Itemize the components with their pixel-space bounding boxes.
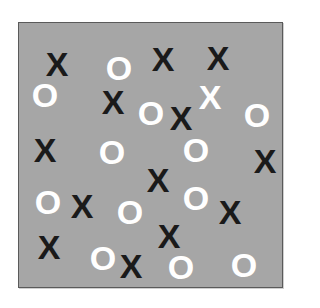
o-mark: O [138,96,164,130]
x-mark: X [71,189,94,223]
o-mark: O [183,181,209,215]
x-mark: X [102,85,125,119]
o-mark: O [35,185,61,219]
x-mark: X [38,230,61,264]
o-mark: O [106,51,132,85]
x-mark: X [170,101,193,135]
o-mark: O [244,98,270,132]
o-mark: O [32,78,58,112]
x-mark: X [207,41,230,75]
x-mark: X [34,133,57,167]
x-mark-highlighted: X [199,80,222,114]
o-mark: O [117,195,143,229]
x-mark: X [120,249,143,283]
x-mark: X [219,195,242,229]
x-mark: X [254,144,277,178]
o-mark: O [183,133,209,167]
o-mark: O [231,248,257,282]
x-mark: X [147,163,170,197]
o-mark: O [99,135,125,169]
o-mark: O [90,241,116,275]
o-mark: O [168,250,194,284]
x-mark: X [152,42,175,76]
